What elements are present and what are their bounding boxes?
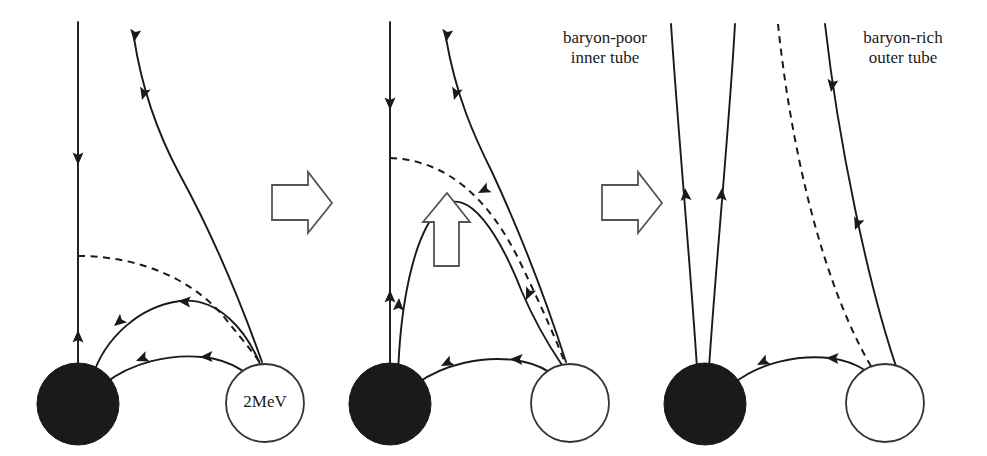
panel-3-companion-star <box>846 364 924 442</box>
evolution-arrow-second <box>602 172 662 233</box>
inner-tube-label-line2: inner tube <box>571 48 639 67</box>
panel-2-outer-open-line <box>446 38 566 362</box>
energy-label-2mev: 2MeV <box>229 392 301 412</box>
panel-1-lower-loop-arrow-right <box>200 351 213 362</box>
panel-2-compact-star <box>349 363 431 445</box>
panel-3-separatrix-dashed <box>778 24 872 368</box>
outer-tube-label: baryon-richouter tube <box>838 28 968 68</box>
panel-3-outer-tube-line <box>825 24 898 372</box>
diagram-canvas <box>0 0 987 456</box>
panel-3-inner-tube-left-arrow <box>680 188 692 201</box>
panel-3-compact-star <box>664 363 746 445</box>
panel-1-group <box>37 22 304 445</box>
panel-2-risen-loop-down-arrow <box>393 298 405 311</box>
panel-2-companion-star <box>531 364 609 442</box>
evolution-arrow-first <box>272 172 332 233</box>
panel-3-group <box>664 24 924 445</box>
inner-tube-label-line1: baryon-poor <box>563 28 647 47</box>
panel-1-outer-open-line <box>134 38 262 362</box>
panel-2-group <box>349 22 609 445</box>
panel-1-compact-star <box>37 363 119 445</box>
outer-tube-label-line2: outer tube <box>869 48 937 67</box>
panel-2-risen-loop <box>398 202 564 376</box>
outer-tube-label-line1: baryon-rich <box>863 28 942 47</box>
inner-tube-label: baryon-poorinner tube <box>540 28 670 68</box>
physics-diagram: 2MeV baryon-poorinner tube baryon-richou… <box>0 0 987 456</box>
panel-2-risen-loop-arrow <box>476 182 492 197</box>
panel-2-separatrix-dashed <box>390 158 566 366</box>
panel-2-low-loop-arrow-right <box>510 354 523 365</box>
